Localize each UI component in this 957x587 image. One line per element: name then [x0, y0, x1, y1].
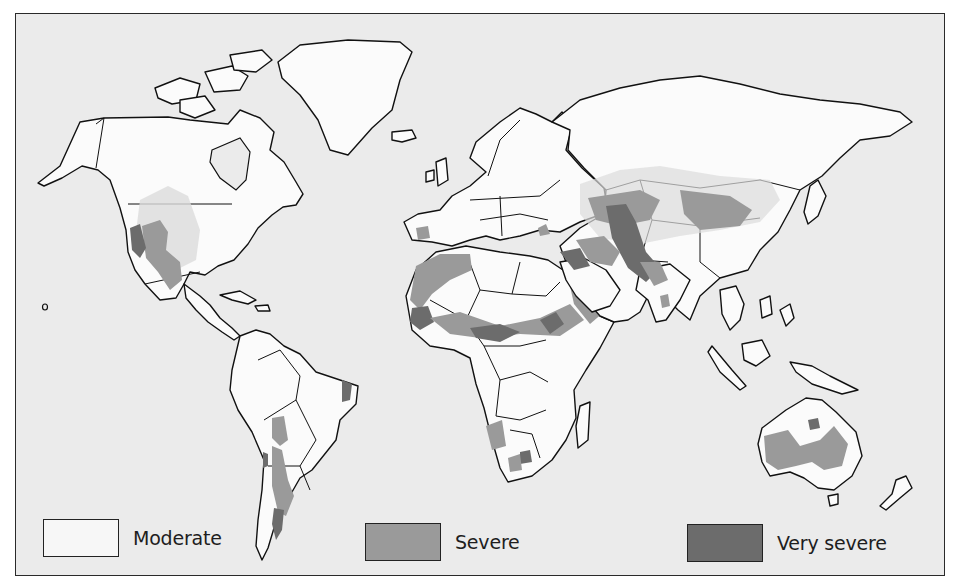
- legend-item-moderate: Moderate: [43, 519, 222, 557]
- oceania: [758, 398, 912, 510]
- asia: [552, 76, 912, 394]
- legend-swatch-severe: [365, 523, 441, 561]
- south-america: [230, 330, 358, 560]
- legend-label-severe: Severe: [455, 531, 520, 553]
- legend-item-very-severe: Very severe: [687, 524, 887, 562]
- legend-swatch-moderate: [43, 519, 119, 557]
- legend-label-very-severe: Very severe: [777, 532, 887, 554]
- legend-item-severe: Severe: [365, 523, 520, 561]
- legend-label-moderate: Moderate: [133, 527, 222, 549]
- world-map: [0, 0, 957, 587]
- legend-swatch-very-severe: [687, 524, 763, 562]
- north-america: [38, 40, 412, 340]
- pacific-island: [43, 304, 48, 310]
